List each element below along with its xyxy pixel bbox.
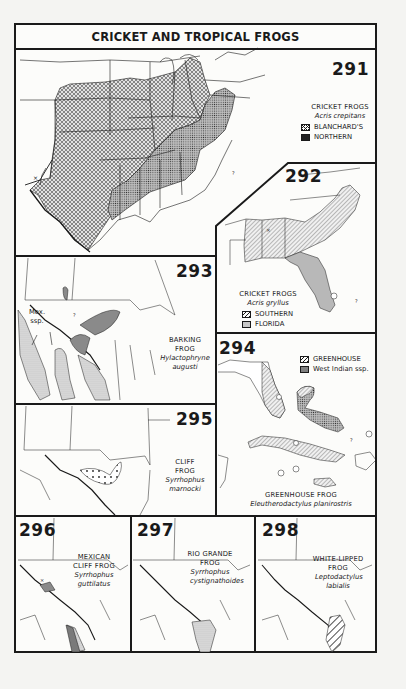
map-296-caption: MEXICAN CLIFF FROG Syrrhophus guttilatus: [68, 553, 120, 589]
map-293-caption: BARKING FROG Hylactophryne augusti: [155, 336, 215, 372]
hatch-swatch-icon: [300, 356, 309, 363]
map-298-common-name: WHITE-LIPPED FROG: [312, 555, 364, 573]
map-293-common-name: BARKING FROG: [155, 336, 215, 354]
map-295-number: 295: [176, 409, 213, 429]
map-298-caption: WHITE-LIPPED FROG Leptodactylus labialis: [308, 555, 368, 591]
map-295-artwork: [20, 406, 170, 515]
map-297-scientific-name: Syrrhophus cystignathoides: [190, 568, 230, 586]
map-294-common-name: GREENHOUSE FROG: [236, 491, 366, 500]
legend-item-blanchards: BLANCHARD'S: [301, 122, 363, 132]
map-291-number: 291: [332, 59, 369, 79]
gray-swatch-icon: [242, 321, 251, 328]
map-293-scientific-name: Hylactophryne augusti: [159, 354, 211, 372]
map-293-annotation: Mex. ssp.: [22, 308, 52, 326]
map-296-scientific-name: Syrrhophus guttilatus: [72, 571, 116, 589]
map-293-number: 293: [176, 261, 213, 281]
field-guide-page: CRICKET AND TROPICAL FROGS: [0, 0, 406, 689]
map-297-common-name: RIO GRANDE FROG: [186, 550, 234, 568]
map-294-caption: GREENHOUSE FROG Eleutherodactylus planir…: [236, 491, 366, 509]
legend-item-florida: FLORIDA: [242, 319, 293, 329]
map-297-caption: RIO GRANDE FROG Syrrhophus cystignathoid…: [182, 550, 238, 586]
hatch-swatch-icon: [242, 311, 251, 318]
legend-item-southern: SOUTHERN: [242, 309, 293, 319]
map-296-number: 296: [19, 520, 56, 540]
stipple-swatch-icon: [300, 366, 309, 373]
svg-text:?: ?: [232, 170, 235, 176]
map-292-number: 292: [285, 166, 322, 186]
svg-text:×: ×: [266, 227, 271, 233]
map-294-artwork: ?: [218, 360, 376, 488]
legend-item-greenhouse: GREENHOUSE: [300, 354, 369, 364]
map-293-artwork: ?: [18, 258, 175, 400]
legend-item-northern: NORTHERN: [301, 132, 363, 142]
map-295-caption: CLIFF FROG Syrrhophus marnocki: [160, 458, 210, 494]
map-294-legend: GREENHOUSE West Indian ssp.: [300, 354, 369, 374]
map-292-caption: CRICKET FROGS Acris gryllus: [228, 290, 308, 308]
stipple-swatch-icon: [301, 134, 310, 141]
map-296-common-name: MEXICAN CLIFF FROG: [68, 553, 120, 571]
map-294-number: 294: [219, 338, 256, 358]
map-297-number: 297: [137, 520, 174, 540]
map-298-scientific-name: Leptodactylus labialis: [315, 573, 361, 591]
map-291-legend: BLANCHARD'S NORTHERN: [301, 122, 363, 142]
map-292-common-name: CRICKET FROGS: [228, 290, 308, 299]
map-292-legend: SOUTHERN FLORIDA: [242, 309, 293, 329]
map-291-common-name: CRICKET FROGS: [300, 103, 380, 112]
map-291-caption: CRICKET FROGS Acris crepitans: [300, 103, 380, 121]
map-295-scientific-name: Syrrhophus marnocki: [163, 476, 207, 494]
svg-text:×: ×: [40, 577, 44, 583]
svg-text:?: ?: [350, 437, 353, 443]
legend-item-west-indian: West Indian ssp.: [300, 364, 369, 374]
svg-text:×: ×: [33, 174, 38, 181]
map-292-scientific-name: Acris gryllus: [228, 299, 308, 308]
svg-text:?: ?: [73, 312, 76, 318]
crosshatch-swatch-icon: [301, 124, 310, 131]
map-294-scientific-name: Eleutherodactylus planirostris: [236, 500, 366, 509]
svg-text:?: ?: [355, 298, 358, 304]
map-298-number: 298: [262, 520, 299, 540]
map-295-common-name: CLIFF FROG: [160, 458, 210, 476]
map-291-scientific-name: Acris crepitans: [300, 112, 380, 121]
